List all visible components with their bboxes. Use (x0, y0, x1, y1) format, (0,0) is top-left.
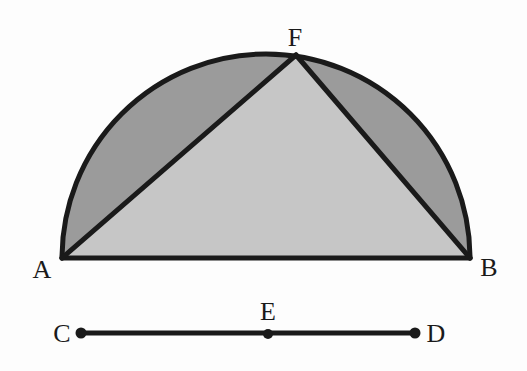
point-dot-E (263, 329, 273, 339)
vertex-label-F: F (288, 25, 302, 51)
vertex-label-D: D (427, 321, 446, 347)
geometry-figure: A B F C E D (0, 0, 527, 371)
vertex-label-E: E (260, 299, 276, 325)
vertex-label-B: B (480, 255, 497, 281)
vertex-label-C: C (53, 321, 70, 347)
point-dot-C (76, 328, 87, 339)
point-dot-D (410, 328, 421, 339)
vertex-label-A: A (33, 257, 52, 283)
